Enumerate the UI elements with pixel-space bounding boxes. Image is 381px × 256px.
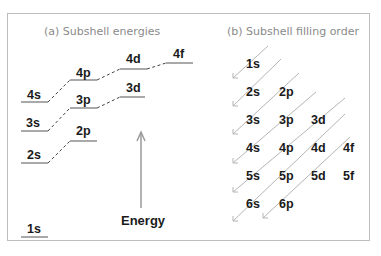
level-label-3d: 3d <box>126 81 141 95</box>
level-label-2s: 2s <box>27 148 41 162</box>
subshell-1s: 1s <box>246 57 260 71</box>
subshell-5f: 5f <box>343 169 355 183</box>
subshell-5s: 5s <box>246 169 260 183</box>
subshell-6s: 6s <box>246 197 260 211</box>
level-label-4d: 4d <box>126 52 141 66</box>
filling-order-arrows <box>233 46 350 221</box>
panel-a-title: (a) Subshell energies <box>44 25 160 38</box>
energy-levels <box>21 63 193 237</box>
subshell-4p: 4p <box>279 141 294 155</box>
subshell-4f: 4f <box>343 141 355 155</box>
subshell-diagram: (a) Subshell energies 4s 4p 4d 4f 3s 3p … <box>0 0 381 256</box>
energy-arrow-icon <box>137 132 145 208</box>
level-label-3p: 3p <box>76 93 91 107</box>
subshell-3s: 3s <box>246 113 260 127</box>
level-label-1s: 1s <box>27 222 41 236</box>
subshell-4d: 4d <box>311 141 326 155</box>
level-label-4f: 4f <box>173 47 185 61</box>
level-connectors <box>48 63 166 163</box>
subshell-4s: 4s <box>246 141 260 155</box>
subshell-3d: 3d <box>311 113 326 127</box>
subshell-2p: 2p <box>279 85 294 99</box>
subshell-3p: 3p <box>279 113 294 127</box>
level-label-4s: 4s <box>27 88 41 102</box>
subshell-2s: 2s <box>246 85 260 99</box>
panel-b-title: (b) Subshell filling order <box>227 25 359 38</box>
subshell-6p: 6p <box>279 197 294 211</box>
level-label-4p: 4p <box>76 66 91 80</box>
subshell-5d: 5d <box>311 169 326 183</box>
energy-axis-label: Energy <box>121 213 166 228</box>
subshell-5p: 5p <box>279 169 294 183</box>
level-label-2p: 2p <box>76 124 91 138</box>
filling-order-grid: 1s 2s 2p 3s 3p 3d 4s 4p 4d 4f 5s 5p 5d 5… <box>246 57 355 211</box>
level-label-3s: 3s <box>26 116 40 130</box>
